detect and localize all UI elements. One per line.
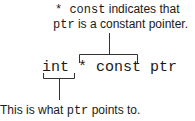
bottom-annotation-prefix: This is what xyxy=(0,103,67,117)
variable-name: ptr xyxy=(150,59,177,76)
pointer-declaration-diagram: * const indicates that ptr is a constant… xyxy=(0,0,195,121)
type-int: int xyxy=(42,59,69,76)
bottom-annotation-suffix: points to. xyxy=(88,103,140,117)
bottom-annotation: This is what ptr points to. xyxy=(0,103,140,118)
ptr-code-bottom: ptr xyxy=(67,104,89,118)
const-qualifier: * const xyxy=(78,59,141,76)
declaration-code-line: int * const ptr xyxy=(42,60,177,76)
